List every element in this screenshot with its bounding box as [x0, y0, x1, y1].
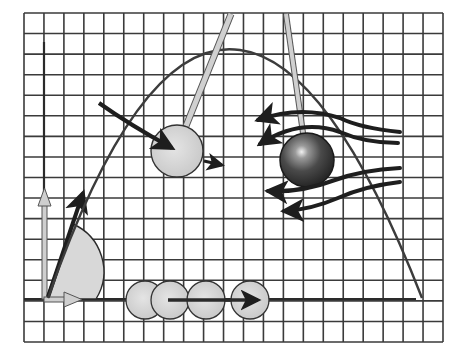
incoming-arrow — [99, 103, 172, 148]
diagram-canvas — [0, 0, 469, 360]
launch-angle-wedge — [46, 224, 104, 299]
vertical-component-arrow — [38, 188, 51, 299]
outgoing-arrow — [204, 161, 222, 165]
spinning-ball — [280, 133, 334, 187]
physics-diagram — [0, 0, 469, 360]
pendulum-ball — [151, 125, 203, 177]
